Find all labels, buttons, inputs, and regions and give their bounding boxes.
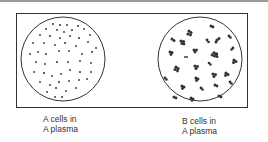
dish-b-cells-in-a-plasma <box>158 17 242 102</box>
caption-a-line1: A cells in <box>43 114 78 124</box>
caption-a-line2: A plasma <box>43 124 78 134</box>
agglutinated-clumps <box>164 25 238 102</box>
caption-a-cells-in-a-plasma: A cells in A plasma <box>43 114 78 134</box>
caption-b-cells-in-a-plasma: B cells in A plasma <box>182 116 217 136</box>
blood-typing-diagram <box>0 0 268 142</box>
caption-b-line2: A plasma <box>182 126 217 136</box>
caption-b-line1: B cells in <box>182 116 217 126</box>
dish-a-cells-in-a-plasma <box>21 17 105 101</box>
dispersed-cells <box>29 23 97 98</box>
